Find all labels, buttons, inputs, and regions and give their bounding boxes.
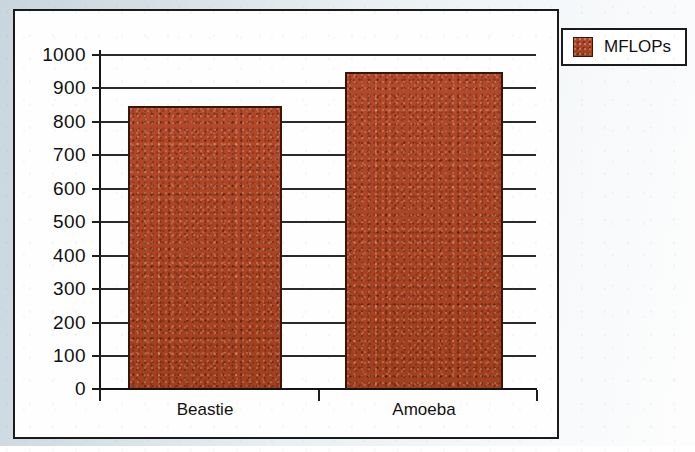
y-tick-label-700: 700 (22, 144, 86, 166)
gridline-1000 (99, 54, 536, 56)
y-tick-mark-300 (92, 288, 101, 290)
legend-label-mflops: MFLOPs (604, 37, 671, 57)
y-tick-label-800: 800 (22, 111, 86, 133)
y-tick-label-500: 500 (22, 211, 86, 233)
y-tick-label-0: 0 (22, 378, 86, 400)
y-tick-mark-400 (92, 255, 101, 257)
y-tick-label-300: 300 (22, 278, 86, 300)
y-tick-mark-1000 (92, 54, 101, 56)
chart-legend: MFLOPs (561, 28, 687, 66)
bar-amoeba[interactable] (345, 72, 503, 390)
y-tick-label-100: 100 (22, 345, 86, 367)
plot-area: 1000 900 800 700 600 500 400 300 200 100… (0, 0, 695, 452)
x-tick-mark-left (99, 390, 101, 401)
y-tick-label-400: 400 (22, 245, 86, 267)
y-tick-mark-600 (92, 188, 101, 190)
chart-screenshot: 1000 900 800 700 600 500 400 300 200 100… (0, 0, 695, 452)
bar-beastie[interactable] (128, 106, 282, 390)
y-tick-label-600: 600 (22, 178, 86, 200)
y-tick-label-200: 200 (22, 312, 86, 334)
y-tick-mark-200 (92, 322, 101, 324)
y-tick-mark-500 (92, 221, 101, 223)
y-tick-label-900: 900 (22, 77, 86, 99)
y-tick-mark-100 (92, 355, 101, 357)
x-tick-mark-right (536, 390, 538, 401)
y-tick-label-1000: 1000 (22, 44, 86, 66)
y-tick-mark-900 (92, 87, 101, 89)
legend-swatch-mflops (573, 37, 593, 57)
y-tick-mark-700 (92, 154, 101, 156)
x-tick-mark-middle (318, 390, 320, 401)
x-category-label-amoeba: Amoeba (364, 400, 484, 420)
x-category-label-beastie: Beastie (145, 400, 265, 420)
y-tick-mark-800 (92, 121, 101, 123)
